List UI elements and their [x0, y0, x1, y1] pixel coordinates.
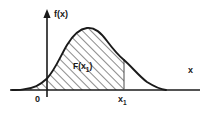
y-axis-label: f(x): [54, 10, 68, 19]
area-label-base: F(x: [73, 61, 86, 71]
x1-tick-label-subscript: 1: [123, 99, 127, 106]
area-label-close: ): [89, 61, 92, 71]
origin-label: 0: [35, 95, 40, 104]
area-label: F(x1): [73, 62, 92, 73]
plot-canvas: [0, 0, 209, 114]
density-curve-figure: f(x) x 0 x1 F(x1): [0, 0, 209, 114]
x-axis-label: x: [188, 66, 193, 75]
y-axis-arrowhead: [43, 9, 50, 18]
x1-tick-label: x1: [118, 95, 127, 106]
